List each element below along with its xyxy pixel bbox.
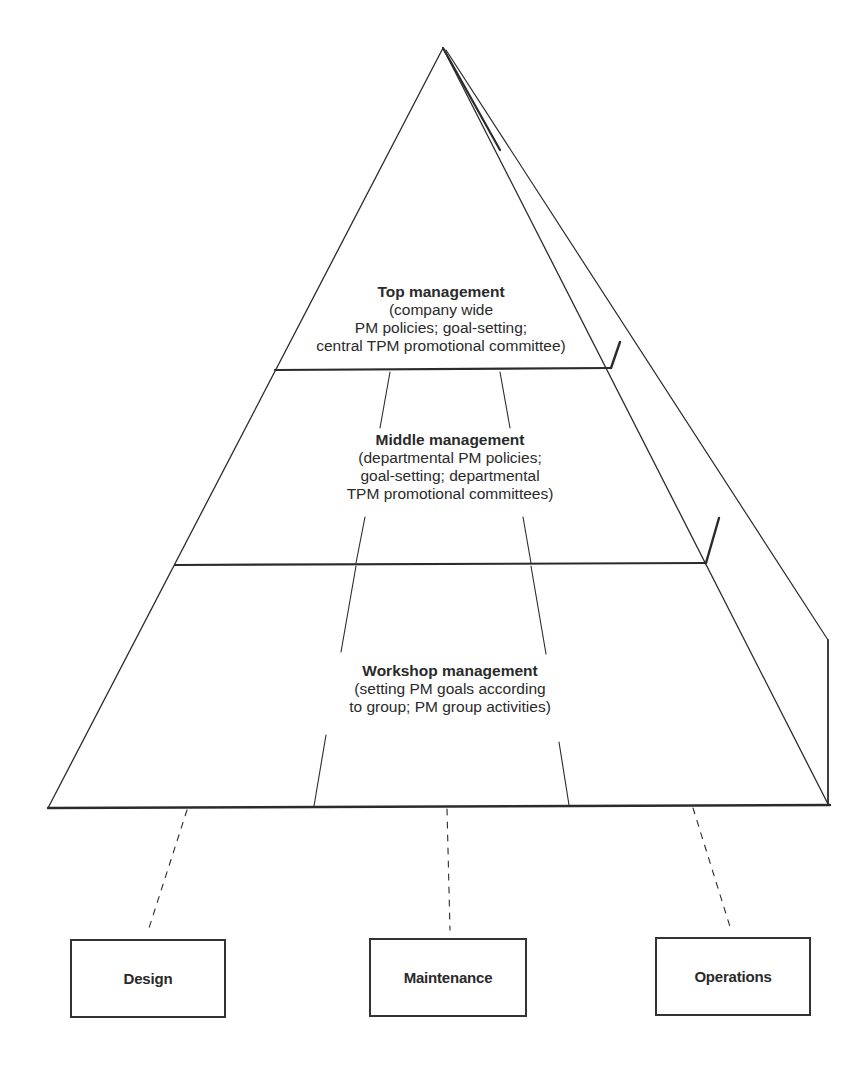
level-title: Middle management bbox=[310, 431, 590, 449]
level-middle-management: Middle management (departmental PM polic… bbox=[310, 431, 590, 503]
pyramid-base bbox=[48, 805, 830, 808]
level-description-line: (departmental PM policies; bbox=[310, 449, 590, 467]
level-title: Workshop management bbox=[310, 662, 590, 680]
dept-line-right-workshop-lower bbox=[559, 742, 569, 805]
level-description-line: TPM promotional committees) bbox=[310, 485, 590, 503]
dept-line-right-middle-upper bbox=[500, 372, 510, 428]
department-box-operations: Operations bbox=[655, 937, 811, 1016]
department-box-design: Design bbox=[70, 939, 226, 1018]
connector-operations bbox=[693, 808, 731, 930]
department-label: Operations bbox=[694, 968, 771, 985]
level-description-line: goal-setting; departmental bbox=[310, 467, 590, 485]
connector-design bbox=[149, 810, 187, 928]
dept-line-right-workshop-upper bbox=[531, 566, 546, 654]
department-label: Design bbox=[124, 970, 173, 987]
pyramid-apex-ridge bbox=[443, 48, 500, 150]
level-description-line: (company wide bbox=[276, 301, 606, 319]
connector-maintenance bbox=[447, 809, 450, 930]
dept-line-right-middle-lower bbox=[523, 517, 531, 563]
department-label: Maintenance bbox=[404, 969, 493, 986]
divider-middle-workshop-side bbox=[706, 518, 719, 563]
pyramid-diagram bbox=[0, 0, 866, 1066]
divider-top-middle-side bbox=[611, 342, 620, 368]
dept-line-left-middle-upper bbox=[380, 372, 390, 428]
level-title: Top management bbox=[276, 283, 606, 301]
dept-line-left-workshop-upper bbox=[341, 566, 356, 652]
level-description-line: (setting PM goals according bbox=[310, 680, 590, 698]
level-description-line: central TPM promotional committee) bbox=[276, 337, 606, 355]
dept-line-left-middle-lower bbox=[356, 517, 365, 563]
dept-line-left-workshop-lower bbox=[314, 735, 326, 806]
divider-top-middle bbox=[275, 368, 611, 370]
level-workshop-management: Workshop management (setting PM goals ac… bbox=[310, 662, 590, 716]
department-box-maintenance: Maintenance bbox=[369, 938, 527, 1017]
level-description-line: to group; PM group activities) bbox=[310, 698, 590, 716]
level-description-line: PM policies; goal-setting; bbox=[276, 319, 606, 337]
level-top-management: Top management (company wide PM policies… bbox=[276, 283, 606, 355]
divider-middle-workshop bbox=[175, 563, 706, 565]
